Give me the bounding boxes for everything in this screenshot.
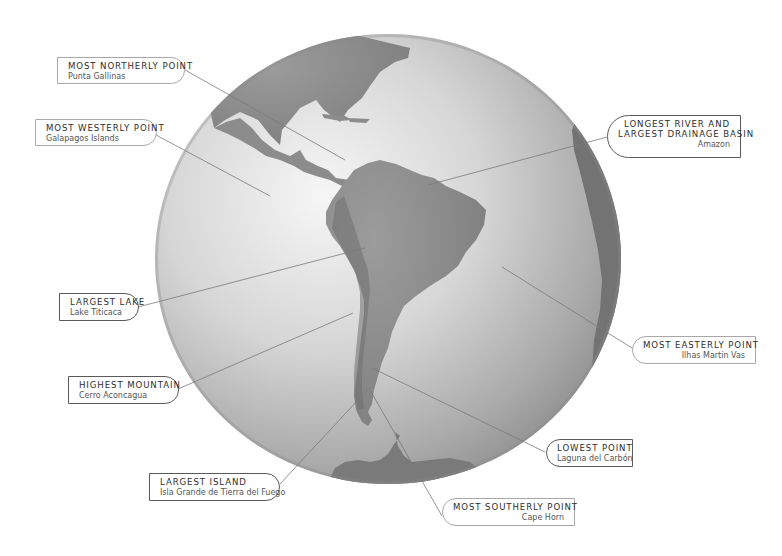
callout-value: Galapagos Islands (46, 134, 146, 143)
callout-value: Isla Grande de Tierra del Fuego (160, 488, 269, 497)
callout-title: MOST EASTERLY POINT (643, 341, 745, 351)
callout-most-easterly-point: MOST EASTERLY POINT Ilhas Martin Vas (632, 336, 756, 364)
callout-title: LOWEST POINT (557, 444, 622, 454)
callout-title: MOST NORTHERLY POINT (68, 62, 174, 72)
callout-largest-island: LARGEST ISLAND Isla Grande de Tierra del… (149, 473, 280, 501)
callout-value: Cerro Aconcagua (79, 391, 168, 400)
callout-value: Ilhas Martin Vas (643, 351, 745, 360)
callout-value: Cape Horn (453, 513, 564, 522)
callout-value: Lake Titicaca (70, 308, 128, 317)
callout-value: Amazon (618, 140, 730, 149)
callout-highest-mountain: HIGHEST MOUNTAIN Cerro Aconcagua (68, 376, 179, 404)
callout-lowest-point: LOWEST POINT Laguna del Carbón (546, 439, 633, 467)
callout-title: LARGEST LAKE (70, 298, 128, 308)
callout-title: MOST WESTERLY POINT (46, 124, 146, 134)
callout-title: MOST SOUTHERLY POINT (453, 503, 564, 513)
callout-title: HIGHEST MOUNTAIN (79, 381, 168, 391)
callout-value: Punta Gallinas (68, 72, 174, 81)
callout-most-southerly-point: MOST SOUTHERLY POINT Cape Horn (442, 498, 575, 526)
land-iberia (520, 40, 560, 62)
south-america-superlatives-diagram: MOST NORTHERLY POINT Punta Gallinas MOST… (0, 0, 782, 556)
callout-most-westerly-point: MOST WESTERLY POINT Galapagos Islands (35, 119, 157, 146)
callout-largest-lake: LARGEST LAKE Lake Titicaca (59, 293, 139, 321)
callout-title: LARGEST ISLAND (160, 478, 269, 488)
callout-value: Laguna del Carbón (557, 454, 622, 463)
callout-longest-river: LONGEST RIVER AND LARGEST DRAINAGE BASIN… (607, 115, 741, 158)
callout-most-northerly-point: MOST NORTHERLY POINT Punta Gallinas (57, 57, 185, 84)
callout-title-line2: LARGEST DRAINAGE BASIN (618, 130, 730, 140)
